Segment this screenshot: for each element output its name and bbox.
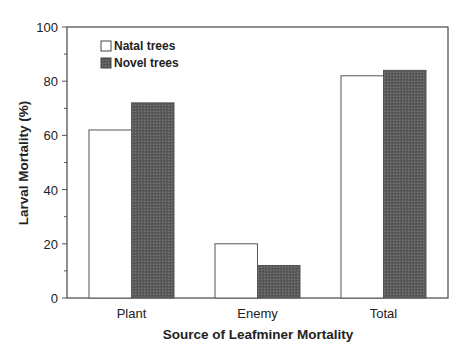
x-tick-label-total: Total [370, 306, 398, 321]
x-tick-label-plant: Plant [117, 306, 147, 321]
legend-label-novel: Novel trees [114, 56, 179, 70]
bar-total-natal [341, 76, 384, 298]
bar-enemy-natal [215, 244, 258, 298]
y-tick-label: 40 [44, 183, 58, 198]
x-axis-category-labels: PlantEnemyTotal [117, 306, 398, 321]
legend-swatch-novel [101, 58, 111, 68]
bar-enemy-novel [258, 265, 301, 298]
y-tick-label: 80 [44, 74, 58, 89]
y-axis-title: Larval Mortality (%) [16, 101, 31, 226]
bar-group [89, 70, 426, 298]
x-tick-label-enemy: Enemy [237, 306, 278, 321]
y-tick-label: 0 [51, 291, 58, 306]
legend-swatch-natal [101, 41, 111, 51]
bar-plant-natal [89, 130, 132, 298]
bar-plant-novel [132, 103, 175, 298]
y-tick-label: 60 [44, 128, 58, 143]
legend-label-natal: Natal trees [114, 39, 176, 53]
x-axis-title: Source of Leafminer Mortality [163, 327, 354, 342]
legend: Natal trees Novel trees [101, 39, 179, 70]
bar-total-novel [384, 70, 427, 298]
y-tick-label: 20 [44, 237, 58, 252]
y-tick-label: 100 [36, 20, 58, 35]
bar-chart: 020406080100 PlantEnemyTotal Natal trees… [0, 0, 466, 358]
y-axis-ticks: 020406080100 [36, 20, 67, 306]
